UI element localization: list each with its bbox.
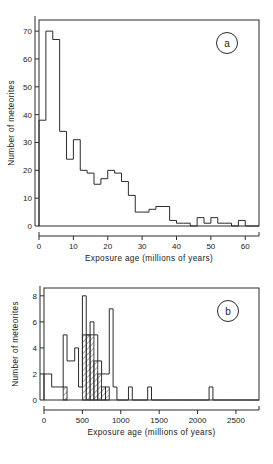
hatched-bar [90, 335, 94, 400]
hatched-bar [98, 374, 102, 400]
x-tick-label: 1000 [112, 416, 130, 425]
y-tick-label: 8 [33, 292, 38, 301]
histogram-figure: 0102030405060700102030405060Exposure age… [0, 0, 273, 464]
plot-frame [44, 288, 259, 400]
figure-root: 0102030405060700102030405060Exposure age… [0, 0, 273, 464]
x-tick-label: 1500 [150, 416, 168, 425]
y-axis-title: Number of meteorites [11, 301, 20, 387]
y-tick-label: 70 [23, 27, 32, 36]
y-tick-label: 4 [33, 344, 38, 353]
x-axis-title: Exposure age (millions of years) [85, 254, 213, 263]
y-tick-label: 60 [23, 55, 32, 64]
hatched-bar [86, 335, 90, 400]
x-tick-label: 60 [241, 242, 250, 251]
y-tick-label: 0 [33, 396, 38, 405]
hatched-bar [82, 335, 86, 400]
x-tick-label: 2000 [189, 416, 207, 425]
hatched-bar [102, 387, 106, 400]
panel-b: 0246805001000150020002500Exposure age (m… [11, 286, 259, 437]
x-tick-label: 30 [138, 242, 147, 251]
x-tick-label: 50 [206, 242, 215, 251]
y-tick-label: 6 [33, 318, 38, 327]
x-tick-label: 0 [42, 416, 47, 425]
x-tick-label: 500 [76, 416, 90, 425]
plot-frame [39, 20, 259, 226]
y-tick-label: 2 [33, 370, 38, 379]
y-tick-label: 0 [28, 222, 33, 231]
x-axis-title: Exposure age (millions of years) [87, 428, 215, 437]
y-axis-title: Number of meteorites [7, 80, 16, 166]
x-tick-label: 0 [37, 242, 42, 251]
y-tick-label: 40 [23, 111, 32, 120]
y-tick-label: 50 [23, 83, 32, 92]
y-tick-label: 30 [23, 138, 32, 147]
y-tick-label: 20 [23, 166, 32, 175]
histogram-step-outline [39, 31, 259, 226]
x-tick-label: 2500 [227, 416, 245, 425]
y-tick-label: 10 [23, 194, 32, 203]
hatched-bar [63, 387, 67, 400]
panel-a: 0102030405060700102030405060Exposure age… [7, 16, 259, 263]
x-tick-label: 40 [172, 242, 181, 251]
hatched-bar [105, 387, 109, 400]
hatched-bar [94, 361, 98, 400]
x-tick-label: 20 [103, 242, 112, 251]
panel-label-text: a [224, 38, 230, 49]
x-tick-label: 10 [69, 242, 78, 251]
panel-label-text: b [225, 306, 231, 317]
